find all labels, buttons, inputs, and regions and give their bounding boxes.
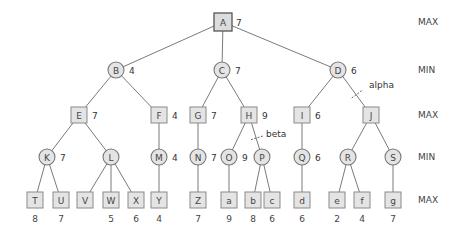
node-label: W (107, 196, 116, 206)
level-label-min: MIN (418, 152, 435, 162)
leaf-value: 4 (359, 214, 365, 224)
node-label: R (345, 153, 351, 163)
alpha-beta-tree-diagram: alphabeta A7B4C7D6E7F4G7H9I6JK7LM4N7O9PQ… (0, 0, 459, 237)
level-labels: MAXMINMAXMINMAX (418, 17, 438, 205)
node-Z: Z7 (190, 192, 206, 224)
node-H: H9 (241, 107, 268, 123)
node-label: X (133, 196, 139, 206)
node-R: R (340, 149, 356, 165)
node-label: b (250, 196, 256, 206)
leaf-value: 5 (108, 214, 114, 224)
level-label-max: MAX (418, 17, 438, 27)
leaf-value: 6 (133, 214, 139, 224)
node-label: E (76, 111, 82, 121)
node-value: 7 (92, 111, 98, 121)
node-M: M4 (151, 149, 178, 165)
node-value: 7 (211, 111, 217, 121)
level-label-max: MAX (418, 195, 438, 205)
node-N: N7 (190, 149, 217, 165)
node-W: W5 (103, 192, 119, 224)
node-label: Z (195, 196, 201, 206)
node-label: B (113, 66, 119, 76)
node-value: 4 (129, 66, 135, 76)
node-P: P (254, 149, 270, 165)
node-E: E7 (71, 107, 98, 123)
node-X: X6 (128, 192, 144, 224)
node-label: Q (298, 153, 305, 163)
level-label-min: MIN (418, 65, 435, 75)
node-Y: Y4 (151, 192, 167, 224)
node-label: N (195, 153, 202, 163)
node-value: 4 (172, 153, 178, 163)
node-label: P (259, 153, 265, 163)
node-label: F (156, 111, 161, 121)
node-label: C (219, 66, 225, 76)
tree-nodes: A7B4C7D6E7F4G7H9I6JK7LM4N7O9PQ6RST8U7VW5… (27, 13, 401, 224)
node-value: 4 (172, 111, 178, 121)
node-label: Y (155, 196, 162, 206)
node-value: 6 (315, 111, 321, 121)
edge-A-D (223, 22, 338, 70)
node-value: 9 (262, 111, 268, 121)
node-label: I (301, 111, 304, 121)
node-label: T (31, 196, 38, 206)
node-label: a (226, 196, 232, 206)
node-label: J (369, 111, 373, 121)
node-value: 6 (315, 153, 321, 163)
level-label-max: MAX (418, 110, 438, 120)
node-U: U7 (53, 192, 69, 224)
node-label: A (220, 18, 227, 28)
node-label: U (58, 196, 65, 206)
leaf-value: 6 (299, 214, 305, 224)
node-d: d6 (294, 192, 310, 224)
node-G: G7 (190, 107, 217, 123)
node-V: V (77, 192, 93, 208)
node-value: 9 (242, 153, 248, 163)
node-F: F4 (151, 107, 178, 123)
beta-label: beta (266, 129, 286, 139)
node-e: e2 (329, 192, 345, 224)
node-C: C7 (214, 62, 241, 78)
leaf-value: 6 (269, 214, 275, 224)
node-K: K7 (39, 149, 66, 165)
node-O: O9 (221, 149, 248, 165)
node-I: I6 (294, 107, 321, 123)
leaf-value: 7 (195, 214, 201, 224)
node-value: 7 (236, 18, 242, 28)
alpha-label: alpha (369, 80, 394, 90)
node-J: J (363, 107, 379, 123)
node-label: V (82, 196, 89, 206)
node-label: d (299, 196, 305, 206)
alpha-cut-mark (351, 91, 362, 99)
leaf-value: 8 (32, 214, 38, 224)
node-value: 7 (60, 153, 66, 163)
leaf-value: 9 (226, 214, 232, 224)
node-label: g (390, 196, 396, 206)
node-label: e (334, 196, 340, 206)
node-L: L (103, 149, 119, 165)
node-label: c (270, 196, 275, 206)
node-D: D6 (330, 62, 357, 78)
node-label: D (335, 66, 342, 76)
leaf-value: 4 (156, 214, 162, 224)
node-g: g7 (385, 192, 401, 224)
leaf-value: 7 (390, 214, 396, 224)
node-Q: Q6 (294, 149, 321, 165)
node-f: f4 (354, 192, 370, 224)
node-label: L (108, 153, 113, 163)
edge-A-B (116, 22, 223, 70)
node-T: T8 (27, 192, 43, 224)
leaf-value: 8 (250, 214, 256, 224)
node-label: M (155, 153, 163, 163)
leaf-value: 7 (58, 214, 64, 224)
node-b: b8 (245, 192, 261, 224)
node-label: O (225, 153, 232, 163)
node-value: 7 (235, 66, 241, 76)
leaf-value: 2 (334, 214, 340, 224)
node-value: 6 (351, 66, 357, 76)
node-value: 7 (211, 153, 217, 163)
node-a: a9 (221, 192, 237, 224)
node-label: H (246, 111, 253, 121)
node-c: c6 (264, 192, 280, 224)
node-label: G (195, 111, 202, 121)
